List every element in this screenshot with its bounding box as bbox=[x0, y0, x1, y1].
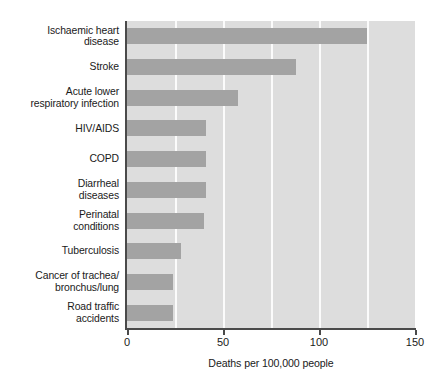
y-axis-label-line: Acute lower bbox=[0, 86, 119, 98]
y-axis-label-line: accidents bbox=[0, 313, 119, 325]
y-axis-label-line: Stroke bbox=[0, 61, 119, 73]
bar bbox=[127, 182, 206, 198]
x-axis-tick-label: 50 bbox=[217, 336, 229, 348]
y-axis-label: Perinatalconditions bbox=[0, 209, 124, 232]
bar bbox=[127, 213, 204, 229]
y-axis-label-line: respiratory infection bbox=[0, 98, 119, 110]
bar bbox=[127, 120, 206, 136]
y-axis-label-line: disease bbox=[0, 36, 119, 48]
y-axis-label: Stroke bbox=[0, 61, 124, 73]
bar bbox=[127, 305, 173, 321]
y-axis-label: Road trafficaccidents bbox=[0, 301, 124, 324]
y-axis-label-line: Road traffic bbox=[0, 301, 119, 313]
y-axis-label-line: conditions bbox=[0, 221, 119, 233]
y-axis-label: Cancer of trachea/bronchus/lung bbox=[0, 270, 124, 293]
y-axis-category-labels: Ischaemic heartdiseaseStrokeAcute lowerr… bbox=[0, 21, 124, 328]
y-axis-label: Diarrhealdiseases bbox=[0, 178, 124, 201]
y-axis-label: Tuberculosis bbox=[0, 245, 124, 257]
bar bbox=[127, 28, 367, 44]
x-axis-title: Deaths per 100,000 people bbox=[127, 357, 415, 369]
bar bbox=[127, 243, 181, 259]
y-axis-label: HIV/AIDS bbox=[0, 123, 124, 135]
y-axis-label-line: HIV/AIDS bbox=[0, 123, 119, 135]
y-axis-label-line: COPD bbox=[0, 153, 119, 165]
bar bbox=[127, 59, 296, 75]
y-axis-label-line: Diarrheal bbox=[0, 178, 119, 190]
x-axis-tick-label: 150 bbox=[406, 336, 424, 348]
y-axis-label: COPD bbox=[0, 153, 124, 165]
x-axis-tick-label: 100 bbox=[310, 336, 328, 348]
plot-area bbox=[127, 21, 415, 328]
x-axis-tick-mark bbox=[223, 330, 225, 335]
y-axis-label-line: diseases bbox=[0, 190, 119, 202]
bar-chart: Ischaemic heartdiseaseStrokeAcute lowerr… bbox=[0, 0, 443, 389]
x-axis-tick-mark bbox=[319, 330, 321, 335]
x-axis-tick-mark bbox=[127, 330, 129, 335]
gridline bbox=[319, 21, 321, 328]
y-axis-label-line: Tuberculosis bbox=[0, 245, 119, 257]
y-axis-label-line: Ischaemic heart bbox=[0, 25, 119, 37]
y-axis-line bbox=[125, 21, 127, 330]
y-axis-label-line: Perinatal bbox=[0, 209, 119, 221]
y-axis-label-line: Cancer of trachea/ bbox=[0, 270, 119, 282]
y-axis-label: Ischaemic heartdisease bbox=[0, 25, 124, 48]
bar bbox=[127, 151, 206, 167]
y-axis-label-line: bronchus/lung bbox=[0, 282, 119, 294]
gridline bbox=[367, 21, 369, 328]
x-axis-line bbox=[125, 328, 416, 330]
x-axis-tick-mark bbox=[415, 330, 417, 335]
bar bbox=[127, 90, 238, 106]
y-axis-label: Acute lowerrespiratory infection bbox=[0, 86, 124, 109]
x-axis-tick-label: 0 bbox=[124, 336, 130, 348]
bar bbox=[127, 274, 173, 290]
